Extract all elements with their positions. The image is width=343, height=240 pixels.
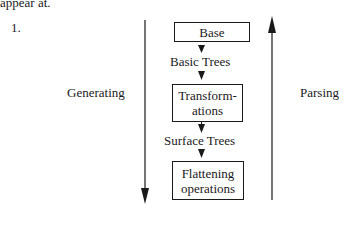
label-generating: Generating — [67, 86, 125, 100]
node-transformations-line1: Transform- — [178, 88, 237, 103]
node-flattening-line2: operations — [181, 181, 235, 196]
label-parsing: Parsing — [300, 86, 339, 100]
node-transformations: Transform- ations — [172, 84, 243, 122]
node-flattening-line1: Flattening — [182, 166, 235, 181]
edge-label-surface-trees: Surface Trees — [164, 134, 235, 148]
node-base: Base — [174, 22, 250, 42]
node-flattening: Flattening operations — [172, 161, 244, 200]
edge-label-basic-trees: Basic Trees — [170, 55, 230, 69]
node-base-label: Base — [199, 25, 224, 40]
node-transformations-line2: ations — [192, 103, 223, 118]
